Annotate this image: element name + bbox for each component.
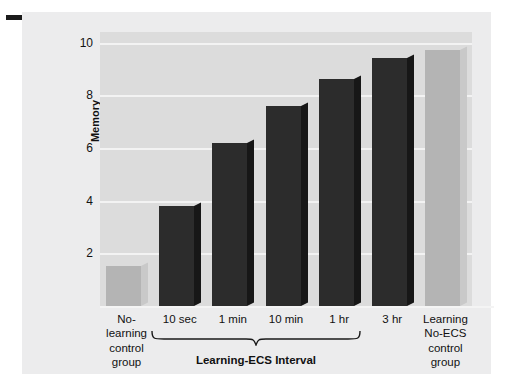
y-tick-label: 8 <box>86 88 93 102</box>
bar-learning-no-ecs-control-group[interactable] <box>425 50 460 306</box>
bar-front-face <box>372 58 407 306</box>
bar-front-face <box>159 206 194 306</box>
x-axis-label-line: learning <box>82 326 172 340</box>
x-axis-label-line: group <box>400 355 490 369</box>
x-axis-label-line: Learning <box>400 312 490 326</box>
bar-1-hr[interactable] <box>319 79 354 306</box>
gridline <box>100 43 472 45</box>
plot-area: 246810 <box>100 32 472 306</box>
bar-side-face <box>247 139 254 306</box>
x-axis-label-line: No-ECS <box>400 326 490 340</box>
bar-front-face <box>425 50 460 306</box>
bar-3-hr[interactable] <box>372 58 407 306</box>
bar-10-min[interactable] <box>266 106 301 306</box>
bar-front-face <box>212 143 247 306</box>
figure-panel: Memory (mean niche explorations) 246810 … <box>22 12 491 374</box>
y-tick-label: 2 <box>86 246 93 260</box>
bar-front-face <box>266 106 301 306</box>
group-bracket-brace <box>150 330 362 346</box>
bar-10-sec[interactable] <box>159 206 194 306</box>
bar-front-face <box>319 79 354 306</box>
x-axis-label-line: control <box>400 341 490 355</box>
x-axis-label-line: group <box>82 355 172 369</box>
bar-side-face <box>194 202 201 306</box>
bar-1-min[interactable] <box>212 143 247 306</box>
group-bracket-label: Learning-ECS Interval <box>150 354 362 366</box>
bar-side-face <box>407 55 414 306</box>
bar-side-face <box>460 47 467 306</box>
axis-baseline <box>100 306 494 308</box>
bar-side-face <box>354 76 361 306</box>
y-tick-label: 4 <box>86 194 93 208</box>
y-tick-label: 6 <box>86 141 93 155</box>
x-axis-label: LearningNo-ECScontrolgroup <box>400 312 490 370</box>
x-axis-label-line: control <box>82 341 172 355</box>
bar-side-face <box>141 263 148 306</box>
gridline <box>100 95 472 97</box>
bar-no-learning-control-group[interactable] <box>106 266 141 306</box>
bar-front-face <box>106 266 141 306</box>
bar-side-face <box>301 102 308 306</box>
y-tick-label: 10 <box>80 36 93 50</box>
